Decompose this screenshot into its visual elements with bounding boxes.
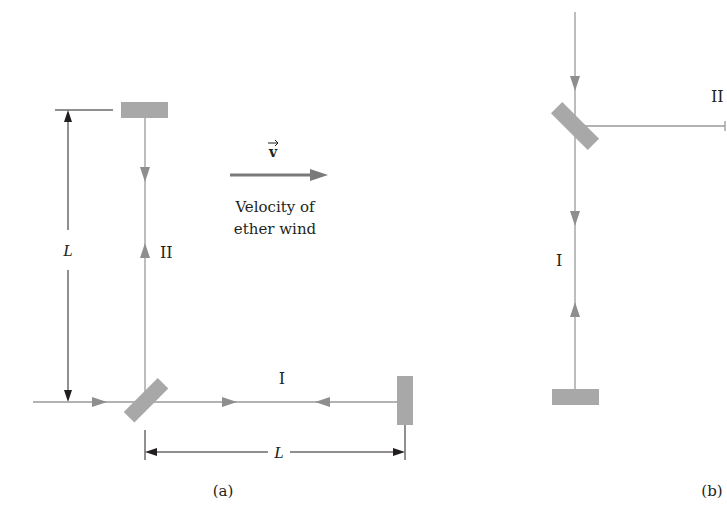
caption-b: (b) (701, 482, 722, 500)
beam-splitter (124, 378, 169, 423)
dimension-horizontal-L: L (145, 425, 405, 462)
beam-arrow-right-icon (222, 397, 237, 407)
panel-b: I II (b) (551, 12, 725, 500)
arm-label-i: I (279, 369, 285, 388)
beam-arrow-left-icon (315, 397, 330, 407)
velocity-symbol: v (268, 144, 278, 160)
arm-label-ii: II (160, 243, 173, 262)
ether-wind-velocity: v Velocity of ether wind (230, 140, 328, 238)
arrow-down-icon (64, 390, 72, 402)
beam-arrow-up-icon (570, 302, 580, 317)
arm-label-i: I (556, 251, 562, 270)
beam-arrow-down-icon (570, 76, 580, 91)
caption-a: (a) (213, 482, 234, 500)
beam-arrow-right-icon (92, 397, 107, 407)
dim-vertical-label: L (62, 241, 72, 260)
beam-arrow-up-icon (140, 243, 150, 258)
dim-horizontal-label: L (273, 443, 283, 462)
velocity-label-line1: Velocity of (234, 198, 316, 216)
mirror-right (397, 376, 413, 425)
arm-label-ii: II (711, 87, 724, 106)
beam-arrow-down-icon (570, 211, 580, 226)
arrow-right-icon (393, 448, 405, 456)
mirror-bottom (552, 389, 599, 405)
mirror-top (121, 102, 168, 118)
arrow-left-icon (145, 448, 157, 456)
arrow-right-icon (310, 169, 328, 181)
michelson-interferometer-diagram: L II I L v (0, 0, 727, 525)
beam-arrow-down-icon (140, 167, 150, 182)
panel-a: L II I L v (33, 102, 413, 500)
arrow-up-icon (64, 110, 72, 122)
velocity-label-line2: ether wind (234, 220, 317, 238)
dimension-vertical-L: L (55, 110, 113, 402)
